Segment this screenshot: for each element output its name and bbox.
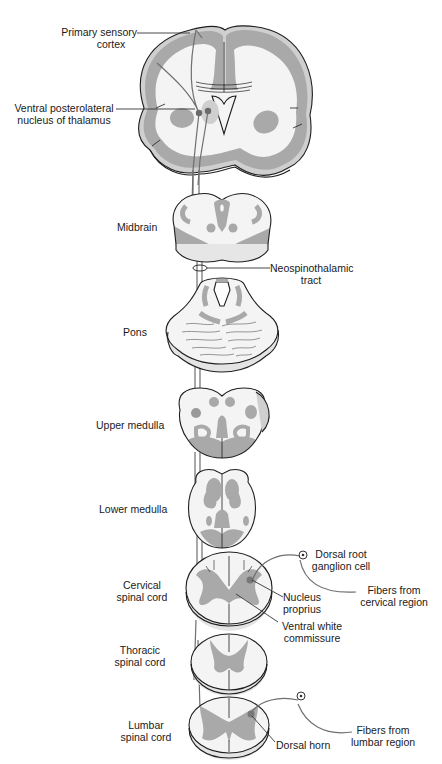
label-line: Fibers from — [350, 724, 416, 736]
label-line: Neospinothalamic — [270, 262, 352, 274]
label-neospinothalamic-tract: Neospinothalamic tract — [270, 262, 352, 286]
upper-medulla-section — [179, 388, 269, 458]
label-fibers-cervical: Fibers from cervical region — [358, 584, 430, 608]
label-lower-medulla: Lower medulla — [99, 503, 167, 515]
label-line: Thoracic — [110, 644, 170, 656]
label-nucleus-proprius: Nucleus proprius — [282, 591, 322, 615]
thoracic-cord-section — [191, 634, 267, 696]
cervical-cord-section — [186, 552, 272, 631]
label-line: Ventral white — [280, 620, 344, 632]
label-line: spinal cord — [116, 731, 176, 743]
label-line: cervical region — [358, 596, 430, 608]
label-ventral-white-commissure: Ventral white commissure — [280, 620, 344, 644]
label-line: ganglion cell — [310, 560, 372, 572]
label-vpl-thalamus: Ventral posterolateral nucleus of thalam… — [12, 102, 116, 126]
label-line: Ventral posterolateral — [12, 102, 116, 114]
label-line: spinal cord — [110, 656, 170, 668]
label-line: nucleus of thalamus — [12, 114, 116, 126]
label-dorsal-horn: Dorsal horn — [276, 739, 330, 751]
label-line: lumbar region — [350, 736, 416, 748]
label-upper-medulla: Upper medulla — [96, 419, 164, 431]
label-line: commissure — [280, 632, 344, 644]
label-line: spinal cord — [112, 591, 172, 603]
label-cervical-spinal-cord: Cervical spinal cord — [112, 579, 172, 603]
brain-coronal-section — [139, 26, 313, 205]
label-line: proprius — [282, 603, 322, 615]
label-line: Nucleus — [282, 591, 322, 603]
label-midbrain: Midbrain — [117, 221, 157, 233]
label-line: cortex — [55, 38, 137, 50]
label-line: Fibers from — [358, 584, 430, 596]
label-line: Cervical — [112, 579, 172, 591]
label-pons: Pons — [123, 326, 147, 338]
tract-marker-ellipse — [193, 265, 207, 271]
label-line: Lumbar — [116, 719, 176, 731]
pons-section — [166, 278, 278, 372]
label-dorsal-root-ganglion: Dorsal root ganglion cell — [310, 548, 372, 572]
label-fibers-lumbar: Fibers from lumbar region — [350, 724, 416, 748]
midbrain-section — [173, 193, 271, 261]
label-line: tract — [270, 274, 352, 286]
label-line: Dorsal root — [310, 548, 372, 560]
label-thoracic-spinal-cord: Thoracic spinal cord — [110, 644, 170, 668]
label-primary-sensory-cortex: Primary sensory cortex — [55, 26, 137, 50]
lower-medulla-section — [189, 470, 256, 549]
label-line: Primary sensory — [55, 26, 137, 38]
label-lumbar-spinal-cord: Lumbar spinal cord — [116, 719, 176, 743]
